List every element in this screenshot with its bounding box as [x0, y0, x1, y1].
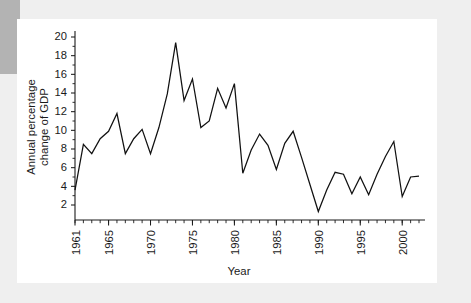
x-tick-label-1995: 1995 [355, 230, 367, 255]
line-chart: 2468101214161820 19611965197019751980198… [17, 19, 437, 283]
x-axis-title: Year [227, 265, 250, 277]
y-tick-label-12: 12 [55, 105, 67, 117]
y-tick-label-4: 4 [61, 180, 67, 192]
x-tick-label-1980: 1980 [229, 230, 241, 255]
y-tick-label-2: 2 [61, 198, 67, 210]
x-tick-label-1990: 1990 [313, 230, 325, 255]
figure-card: 2468101214161820 19611965197019751980198… [17, 19, 437, 283]
x-tick-label-1985: 1985 [271, 230, 283, 255]
gdp-change-line [75, 43, 419, 212]
y-tick-label-14: 14 [55, 86, 67, 98]
y-tick-label-6: 6 [61, 161, 67, 173]
y-tick-label-8: 8 [61, 142, 67, 154]
y-tick-label-16: 16 [55, 68, 67, 80]
chart-canvas: 2468101214161820 19611965197019751980198… [17, 19, 437, 283]
x-tick-label-1970: 1970 [145, 230, 157, 255]
y-axis-title-line-1: Annual percentage [25, 79, 37, 175]
y-axis-title-line-2: change of GDP [38, 88, 50, 166]
x-tick-label-1975: 1975 [187, 230, 199, 255]
x-axis-tick-labels: 196119651970197519801985199019952000 [70, 230, 409, 255]
x-axis-major-ticks [75, 220, 402, 226]
x-tick-label-2000: 2000 [397, 230, 409, 255]
y-axis-tick-labels: 2468101214161820 [55, 30, 67, 210]
x-tick-label-1961: 1961 [70, 230, 82, 255]
y-axis-ticks [71, 37, 75, 205]
y-tick-label-10: 10 [55, 124, 67, 136]
y-tick-label-20: 20 [55, 30, 67, 42]
y-tick-label-18: 18 [55, 49, 67, 61]
x-tick-label-1965: 1965 [103, 230, 115, 255]
